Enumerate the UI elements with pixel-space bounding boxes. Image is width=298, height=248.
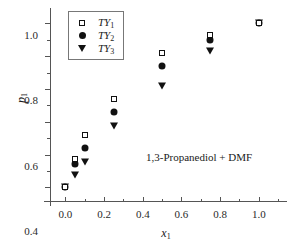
data-point-filled-triangle-down [206,48,214,55]
x-tick-major: 1.0 [259,197,260,202]
x-tick-minor [85,199,86,202]
y-tick-minor [47,40,50,41]
data-point-filled-triangle-down [71,171,79,178]
data-point-open-square [111,96,117,102]
chart-annotation: 1,3-Propanediol + DMF [146,151,252,163]
x-tick-label: 0.0 [59,208,73,220]
legend-series-name: TY [98,42,110,54]
y-tick-major: 1.0 [45,23,50,24]
data-point-open-square [62,184,68,190]
x-tick-major: 0.2 [104,197,105,202]
y-tick-label: 1.0 [24,29,38,41]
y-tick-major: 0.0 [45,187,50,188]
x-tick-minor [278,199,279,202]
data-point-open-square [159,50,165,56]
legend-item[interactable]: TY3 [75,42,114,55]
legend-label: TY2 [98,29,114,43]
data-point-open-square [72,156,78,162]
y-tick-major: 0.2 [45,155,50,156]
x-tick-major: 0.0 [65,197,66,202]
legend-series-subscript: 3 [110,47,114,56]
y-tick-major: 0.6 [45,89,50,90]
data-point-open-square [82,132,88,138]
x-axis-title-subscript: 1 [167,232,171,241]
x-tick-major: 0.6 [181,197,182,202]
y-tick-minor [47,138,50,139]
y-tick-major: 0.8 [45,56,50,57]
legend-series-name: TY [98,29,110,41]
y-tick-minor [47,73,50,74]
y-tick-major: 0.4 [45,122,50,123]
legend-marker-open-square [75,20,89,26]
x-tick-minor [123,199,124,202]
data-point-open-square [207,32,213,38]
legend: TY1TY2TY3 [68,11,124,60]
x-tick-label: 0.2 [97,208,111,220]
x-tick-label: 1.0 [252,208,266,220]
data-point-open-square [256,20,262,26]
data-point-filled-circle [81,144,88,151]
data-point-filled-triangle-down [110,122,118,129]
x-tick-minor [201,199,202,202]
legend-marker-filled-circle [75,32,89,39]
legend-label: TY3 [98,42,114,56]
legend-label: TY1 [98,16,114,30]
x-tick-major: 0.4 [143,197,144,202]
x-axis-line [44,201,287,202]
x-axis-title: x1 [161,226,170,241]
y-tick-minor [47,171,50,172]
y-tick-minor [47,105,50,106]
x-tick-minor [162,199,163,202]
data-point-filled-circle [159,63,166,70]
legend-marker-glyph [78,45,86,52]
y-tick-label: 0.4 [24,225,38,237]
y-tick-label: 0.8 [24,94,38,106]
x-tick-major: 0.8 [220,197,221,202]
data-point-filled-circle [110,108,117,115]
data-point-filled-triangle-down [158,82,166,89]
data-point-filled-triangle-down [81,158,89,165]
y-tick-label: 0.6 [24,160,38,172]
legend-marker-glyph [79,20,85,26]
legend-series-name: TY [98,16,110,28]
x-tick-label: 0.4 [136,208,150,220]
legend-marker-glyph [79,32,86,39]
x-tick-label: 0.6 [175,208,189,220]
chart-figure: p1 x1 0.00.20.40.60.81.0 0.00.20.40.60.8… [0,0,298,248]
y-axis-line [50,8,51,206]
legend-marker-filled-triangle-down [75,45,89,52]
legend-item[interactable]: TY2 [75,29,114,42]
legend-item[interactable]: TY1 [75,16,114,29]
x-tick-label: 0.8 [213,208,227,220]
x-tick-minor [239,199,240,202]
